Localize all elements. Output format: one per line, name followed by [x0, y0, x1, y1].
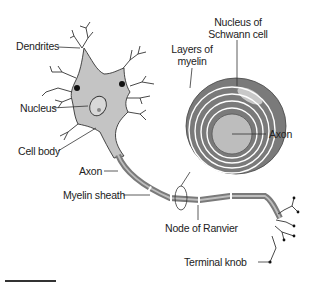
label-nucleus-of-schwann-cell: Nucleus of Schwann cell	[208, 16, 268, 40]
black-dot-left	[74, 85, 80, 91]
label-axon-right: Axon	[269, 128, 292, 140]
label-layers-of-myelin: Layers of myelin	[170, 43, 214, 67]
label-nucleus: Nucleus	[20, 102, 57, 114]
label-myelin-sheath: Myelin sheath	[63, 189, 125, 201]
myelin-cross-section	[186, 78, 286, 174]
label-terminal-knob: Terminal knob	[184, 256, 247, 268]
label-axon-left: Axon	[79, 165, 102, 177]
label-dendrites: Dendrites	[16, 40, 59, 52]
label-node-of-ranvier: Node of Ranvier	[165, 222, 238, 234]
nucleolus-dot	[97, 108, 101, 112]
black-dot-right	[119, 81, 125, 87]
label-cell-body: Cell body	[18, 145, 60, 157]
neuron-diagram: Dendrites Nucleus Cell body Axon Myelin …	[0, 0, 314, 283]
